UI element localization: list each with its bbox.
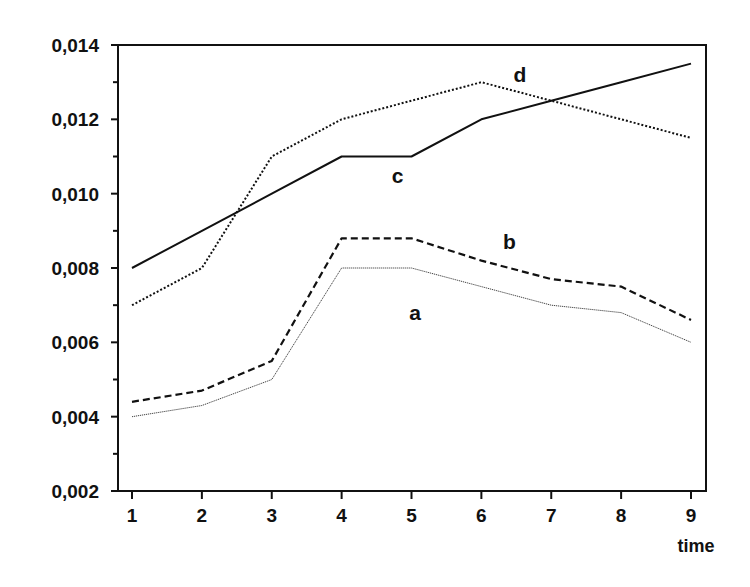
x-tick-label: 1 bbox=[127, 505, 138, 526]
x-tick-label: 7 bbox=[546, 505, 557, 526]
plot-frame bbox=[118, 45, 706, 491]
x-tick-label: 6 bbox=[476, 505, 487, 526]
series-b-label: b bbox=[503, 230, 516, 253]
y-axis: 0,0020,0040,0060,0080,0100,0120,014 bbox=[51, 35, 118, 502]
x-axis: 123456789 bbox=[127, 491, 697, 526]
x-tick-label: 3 bbox=[266, 505, 277, 526]
y-tick-label: 0,014 bbox=[51, 35, 99, 56]
y-tick-label: 0,008 bbox=[51, 258, 99, 279]
x-tick-label: 8 bbox=[616, 505, 627, 526]
series-c-label: c bbox=[392, 164, 404, 187]
x-tick-label: 2 bbox=[197, 505, 208, 526]
y-tick-label: 0,010 bbox=[51, 184, 99, 205]
series-a-label: a bbox=[409, 301, 421, 324]
x-tick-label: 9 bbox=[686, 505, 697, 526]
y-tick-label: 0,004 bbox=[51, 407, 99, 428]
series-d-label: d bbox=[513, 63, 526, 86]
series-labels: abcd bbox=[392, 63, 527, 324]
x-tick-label: 4 bbox=[336, 505, 347, 526]
x-tick-label: 5 bbox=[406, 505, 417, 526]
y-tick-label: 0,012 bbox=[51, 109, 99, 130]
series-a-line bbox=[132, 268, 691, 417]
y-tick-label: 0,006 bbox=[51, 332, 99, 353]
y-tick-label: 0,002 bbox=[51, 481, 99, 502]
series-lines bbox=[132, 64, 691, 417]
line-chart: 0,0020,0040,0060,0080,0100,0120,014 1234… bbox=[0, 0, 750, 587]
series-d-line bbox=[132, 82, 691, 305]
x-axis-title: time bbox=[677, 536, 714, 556]
